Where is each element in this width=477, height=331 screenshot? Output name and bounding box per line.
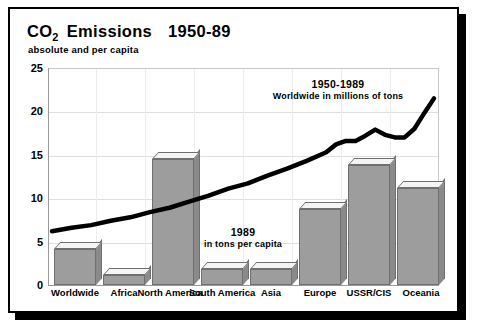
annotation-line-desc: Worldwide in millions of tons — [238, 91, 438, 101]
annotation-line-series: 1950-1989 Worldwide in millions of tons — [238, 78, 438, 101]
bar-side-face — [439, 178, 445, 285]
page-subtitle: absolute and per capita — [28, 44, 139, 55]
x-tick-label-oceania: Oceania — [377, 288, 465, 298]
y-tick-label: 5 — [3, 237, 43, 248]
annotation-bar-title: 1989 — [183, 226, 303, 238]
y-tick-label: 10 — [3, 193, 43, 204]
frame-drop-shadow-bottom — [15, 313, 466, 320]
title-subscript-2: 2 — [52, 31, 58, 43]
annotation-bar-desc: in tons per capita — [183, 239, 303, 249]
y-tick-label: 15 — [3, 150, 43, 161]
annotation-line-title: 1950-1989 — [238, 78, 438, 90]
title-emissions: Emissions — [67, 22, 152, 40]
y-tick-label: 25 — [3, 63, 43, 74]
frame-drop-shadow-right — [459, 14, 466, 320]
y-tick-label: 20 — [3, 106, 43, 117]
title-year-range: 1950-89 — [168, 22, 231, 40]
page-title: CO2Emissions1950-89 — [27, 22, 231, 43]
y-axis-labels: 25 20 15 10 5 0 — [0, 0, 43, 331]
x-axis-line — [48, 285, 439, 286]
annotation-bar-series: 1989 in tons per capita — [183, 226, 303, 249]
chart-figure: CO2Emissions1950-89 absolute and per cap… — [0, 0, 477, 331]
